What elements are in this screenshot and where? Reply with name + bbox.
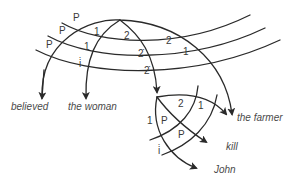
- arc-embedded-john: [156, 97, 196, 168]
- label-2-a: 2: [124, 30, 130, 41]
- label-p-3: P: [46, 39, 53, 50]
- arc-woman: [86, 20, 120, 98]
- word-the-farmer: the farmer: [237, 112, 283, 123]
- label-lower-1b: 1: [198, 100, 204, 111]
- word-believed: believed: [11, 101, 49, 112]
- arc-embedded-farmer: [157, 95, 226, 114]
- word-the-woman: the woman: [68, 101, 117, 112]
- label-lower-p-1: P: [161, 115, 168, 126]
- word-kill: kill: [226, 141, 238, 152]
- label-lower-1: 1: [147, 115, 153, 126]
- label-2-d: 2: [166, 35, 172, 46]
- label-p-1: P: [73, 12, 80, 23]
- label-lower-2: 2: [178, 98, 184, 109]
- label-1-a: 1: [94, 26, 100, 37]
- label-1-c: i̇: [79, 57, 81, 69]
- arc-cross-1: [150, 86, 198, 140]
- label-p-2: P: [59, 25, 66, 36]
- word-john: John: [213, 164, 236, 175]
- arc-cross-2: [162, 95, 217, 155]
- label-lower-i: i̇: [158, 144, 160, 156]
- label-1-b: 1: [84, 41, 90, 52]
- label-lower-p-2: P: [178, 129, 185, 140]
- arc-diagram: P P P 1 1 i̇ 2 2̇ 2̇ 2 1 1 P 2 1 P i̇ be…: [0, 0, 303, 185]
- label-1-d: 1: [183, 46, 189, 57]
- arc-horizontal-2: [48, 28, 265, 55]
- label-2-b: 2̇: [138, 48, 145, 59]
- arc-horizontal-1: [62, 15, 250, 40]
